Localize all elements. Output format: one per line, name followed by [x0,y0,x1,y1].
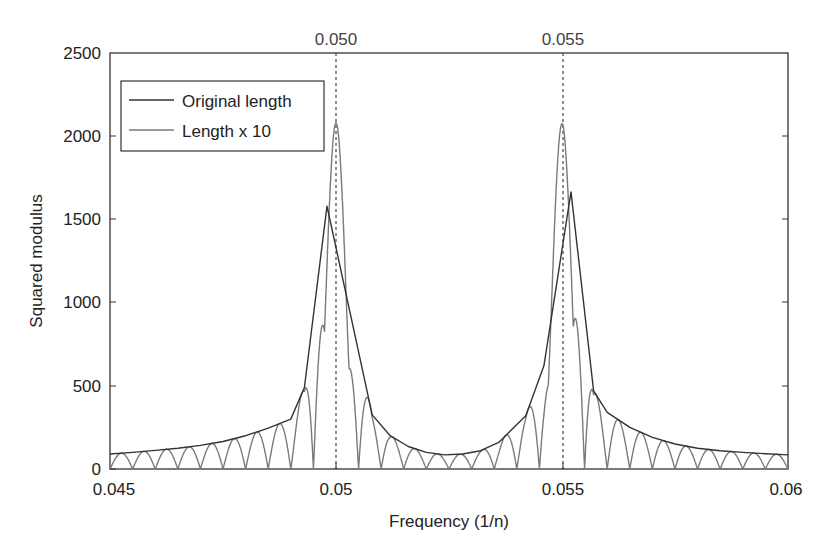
legend: Original length Length x 10 [121,81,324,151]
y-tick-label: 2500 [63,44,101,63]
y-tick-label: 0 [92,460,101,479]
legend-label-length-x10: Length x 10 [182,122,271,141]
x-axis-title: Frequency (1/n) [389,512,509,531]
y-tick-label: 1500 [63,210,101,229]
series-length-x10-line [110,123,788,468]
x-tick-label: 0.06 [769,480,802,499]
x-tick-label: 0.05 [319,480,352,499]
spectrum-chart: 0.050 0.055 0 500 1000 1500 2000 2500 0.… [0,0,826,553]
y-tick-label: 500 [73,377,101,396]
y-tick-label: 2000 [63,127,101,146]
series-original-length-line [110,192,788,455]
x-tick-label: 0.045 [93,480,136,499]
x-tick-label: 0.055 [542,480,585,499]
legend-label-original-length: Original length [182,92,292,111]
reference-label-0-050: 0.050 [315,30,358,49]
y-axis-title: Squared modulus [27,194,46,327]
reference-label-0-055: 0.055 [542,30,585,49]
y-tick-label: 1000 [63,293,101,312]
